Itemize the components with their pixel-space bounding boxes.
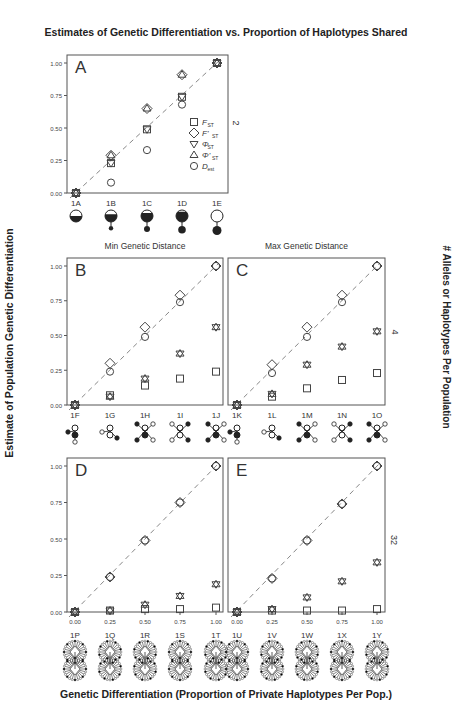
svg-text:Φ': Φ' [202,151,211,160]
svg-text:0.00: 0.00 [69,619,81,625]
svg-text:1.00: 1.00 [50,61,62,67]
svg-text:E: E [236,461,247,480]
svg-text:1K: 1K [232,411,242,420]
svg-text:1.00: 1.00 [210,619,222,625]
panel-c: C1K1L1M1N1O [228,258,387,444]
svg-text:1X: 1X [337,631,347,640]
svg-text:1P: 1P [70,631,80,640]
svg-text:1V: 1V [267,631,277,640]
panel-e: E0.000.250.500.751.001U1V1W1X1Y [225,458,389,681]
svg-text:1E: 1E [212,199,222,208]
panel-d: D0.000.250.500.751.000.000.250.500.751.0… [50,458,228,681]
svg-text:0.00: 0.00 [50,403,62,409]
svg-text:0.75: 0.75 [50,500,62,506]
svg-text:1M: 1M [301,411,312,420]
svg-text:0.50: 0.50 [50,537,62,543]
svg-text:1J: 1J [212,411,220,420]
svg-text:A: A [75,58,87,77]
svg-text:1N: 1N [337,411,347,420]
svg-text:1H: 1H [140,411,150,420]
svg-text:0.25: 0.25 [104,619,116,625]
svg-text:0.50: 0.50 [139,619,151,625]
legend: FSTF'STΦSTΦ'STDest [189,118,218,172]
svg-text:0.75: 0.75 [174,619,186,625]
chart-canvas: A0.000.250.500.751.001A1B1C1D1EB0.000.25… [0,0,452,727]
svg-text:1S: 1S [175,631,185,640]
svg-text:0.25: 0.25 [50,158,62,164]
svg-text:C: C [236,261,248,280]
svg-text:1.00: 1.00 [50,464,62,470]
svg-text:1O: 1O [372,411,383,420]
svg-text:1B: 1B [106,199,116,208]
svg-text:1C: 1C [142,199,152,208]
svg-text:1.00: 1.00 [50,264,62,270]
svg-text:ST: ST [208,122,214,128]
svg-text:1W: 1W [301,631,313,640]
svg-text:0.50: 0.50 [50,126,62,132]
svg-text:D: D [75,461,87,480]
svg-text:1Y: 1Y [372,631,382,640]
svg-text:0.50: 0.50 [301,619,313,625]
svg-text:1T: 1T [211,631,220,640]
svg-text:1F: 1F [70,411,79,420]
svg-text:ST: ST [208,144,214,150]
svg-text:1U: 1U [232,631,242,640]
svg-text:est: est [208,166,215,172]
svg-text:B: B [75,261,86,280]
panel-b: B0.000.250.500.751.001F1G1H1I1J [50,258,226,444]
svg-text:1D: 1D [177,199,187,208]
svg-text:0.00: 0.00 [50,610,62,616]
svg-text:1L: 1L [268,411,277,420]
svg-text:0.00: 0.00 [50,191,62,197]
svg-text:0.75: 0.75 [50,93,62,99]
svg-text:1G: 1G [105,411,116,420]
svg-text:0.50: 0.50 [50,333,62,339]
svg-text:1R: 1R [140,631,150,640]
svg-text:F': F' [202,129,209,138]
svg-text:1Q: 1Q [105,631,116,640]
svg-text:1.00: 1.00 [371,619,383,625]
svg-text:0.75: 0.75 [50,298,62,304]
svg-text:ST: ST [212,155,218,161]
svg-text:1I: 1I [177,411,184,420]
svg-text:ST: ST [212,133,218,139]
svg-text:0.25: 0.25 [266,619,278,625]
svg-text:0.25: 0.25 [50,368,62,374]
svg-text:0.00: 0.00 [231,619,243,625]
svg-text:0.75: 0.75 [336,619,348,625]
svg-text:0.25: 0.25 [50,573,62,579]
svg-text:1A: 1A [71,199,81,208]
